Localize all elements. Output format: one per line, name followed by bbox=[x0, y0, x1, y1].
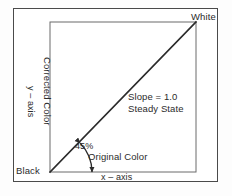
figure-root: White Black x – axis y – axis Corrected … bbox=[0, 0, 232, 196]
label-x-axis: x – axis bbox=[101, 172, 132, 182]
label-steady-state: Steady State bbox=[128, 104, 184, 115]
label-angle-45: 45% bbox=[75, 141, 93, 151]
label-white: White bbox=[191, 12, 216, 23]
label-slope-value: Slope = 1.0 bbox=[128, 92, 184, 103]
label-slope-annotation: Slope = 1.0 Steady State bbox=[128, 92, 184, 114]
label-corrected-color: Corrected Color bbox=[41, 57, 52, 126]
label-black: Black bbox=[16, 166, 40, 177]
label-original-color: Original Color bbox=[88, 152, 147, 163]
label-y-axis: y – axis bbox=[26, 86, 36, 117]
